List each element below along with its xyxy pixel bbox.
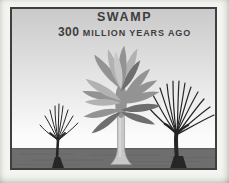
figure-subtitle-number: 300 — [58, 25, 80, 39]
figure-subtitle: 300 MILLION YEARS AGO — [23, 26, 226, 38]
page-background: SWAMP 300 MILLION YEARS AGO — [0, 0, 229, 183]
figure-subtitle-text: MILLION YEARS AGO — [83, 28, 191, 38]
swamp-illustration-frame: SWAMP 300 MILLION YEARS AGO — [10, 7, 217, 170]
figure-title: SWAMP — [23, 11, 226, 24]
